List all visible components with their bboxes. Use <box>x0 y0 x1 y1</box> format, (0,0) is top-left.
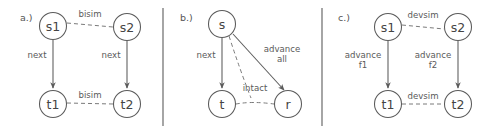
edge-label-c-devsim-top: devsim <box>407 10 438 20</box>
node-c-s2-label: s2 <box>451 20 465 35</box>
panel-c: c.) devsim advance f1 advance f2 devsim … <box>338 10 472 118</box>
node-c-t1-label: t1 <box>382 97 395 112</box>
edge-label-a-bisim-top: bisim <box>78 9 101 19</box>
edge-label-c-advance-f2-line1: advance <box>415 50 452 60</box>
edge-label-c-advance-f2-line2: f2 <box>429 60 438 70</box>
edge-label-c-advance-f1-line2: f1 <box>359 60 368 70</box>
edge-a-s1-s2 <box>67 23 113 27</box>
edge-label-a-next-left: next <box>27 50 47 60</box>
edge-label-b-advance-all-line1: advance <box>264 44 301 54</box>
figure-canvas: a.) bisim next next bisim s1 s2 t1 t2 <box>0 0 489 135</box>
node-b-t-label: t <box>220 97 225 112</box>
panel-a: a.) bisim next next bisim s1 s2 t1 t2 <box>20 9 141 118</box>
node-b-s-label: s <box>219 17 226 32</box>
node-c-t2-label: t2 <box>452 97 465 112</box>
panel-a-label: a.) <box>20 12 33 23</box>
edge-label-b-intact: intact <box>243 83 268 93</box>
edge-a-t1-t2 <box>67 103 113 104</box>
node-a-t2-label: t2 <box>121 97 134 112</box>
panel-c-label: c.) <box>338 12 350 23</box>
node-a-t1-label: t1 <box>47 97 60 112</box>
panel-b-label: b.) <box>180 12 193 23</box>
edge-label-c-devsim-bottom: devsim <box>407 91 438 101</box>
edge-c-s1-s2 <box>402 25 444 29</box>
panel-b: b.) next advance all intact s t r <box>180 11 302 118</box>
edge-label-b-next: next <box>196 50 216 60</box>
edge-b-t-r <box>236 103 274 105</box>
node-b-r-label: r <box>285 97 291 112</box>
edge-label-b-advance-all-line2: all <box>277 54 287 64</box>
edge-label-a-next-right: next <box>101 50 121 60</box>
node-a-s2-label: s2 <box>120 20 134 35</box>
node-c-s1-label: s1 <box>381 20 395 35</box>
node-a-s1-label: s1 <box>46 19 60 34</box>
edge-label-a-bisim-bottom: bisim <box>78 90 101 100</box>
edge-label-c-advance-f1-line1: advance <box>345 50 382 60</box>
